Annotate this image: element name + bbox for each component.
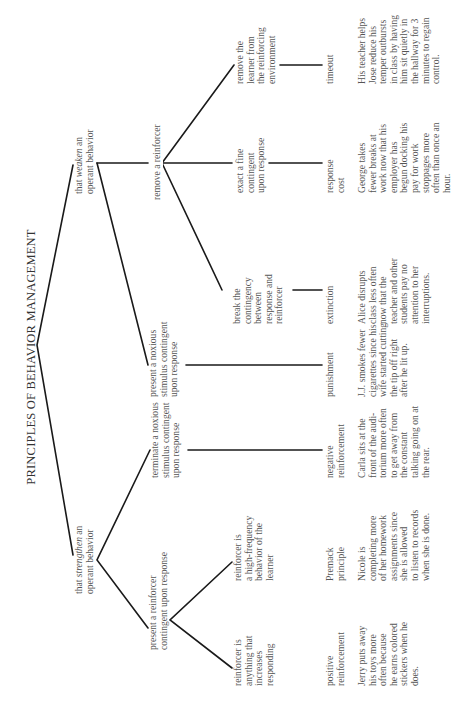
example-positive-reinforcement: Jerry puts away his toys more often beca… — [357, 622, 421, 686]
strengthen-emph: strengthen — [73, 537, 84, 577]
example-negative-reinforcement: Carla sits at the front of the audi- tor… — [357, 406, 431, 478]
example-extinction: Alice disrupts class less often now that… — [357, 258, 431, 324]
example-response-cost: George takes fewer breaks at work now th… — [357, 122, 452, 193]
remove-to-break-line — [162, 163, 222, 290]
term-extinction: extinction — [325, 286, 336, 324]
node-present-noxious: present a noxious stimulus contingent up… — [148, 322, 180, 397]
term-positive-reinforcement: positive reinforcement — [325, 632, 346, 686]
node-remove-learner: remove the learner from the reinforcing … — [235, 27, 277, 84]
term-timeout: timeout — [325, 55, 336, 84]
example-timeout: His teacher helps Jose reduce his temper… — [357, 15, 442, 84]
strengthen-prefix: that — [73, 577, 84, 594]
node-reinforcer-anything: reinforcer is anything that increases re… — [233, 636, 275, 686]
diagram-title: PRINCIPLES OF BEHAVIOR MANAGEMENT — [24, 0, 39, 714]
weaken-emph: weaken — [73, 148, 84, 177]
term-punishment: punishment — [325, 352, 336, 397]
weaken-to-noxious-line — [97, 163, 148, 365]
strengthen-branch-line — [97, 450, 150, 628]
node-reinforcer-high-frequency: reinforcer is a high-frequency behavior … — [233, 516, 275, 581]
root-branch-line — [37, 165, 73, 555]
node-remove-reinforcer: remove a reinforcer — [152, 122, 163, 202]
node-weaken: that weaken an operant behavior — [74, 129, 95, 194]
node-strengthen: that strengthen an operant behavior — [74, 526, 95, 594]
node-break-contingency: break the contingency between response a… — [232, 274, 285, 324]
diagram-stage: PRINCIPLES OF BEHAVIOR MANAGEMENT that s… — [0, 0, 460, 714]
node-present-reinforcer: present a reinforcer contingent upon res… — [148, 552, 169, 650]
term-response-cost: response cost — [325, 159, 346, 193]
remove-to-learner-line — [162, 65, 234, 163]
weaken-prefix: that — [73, 177, 84, 194]
present-reinforcer-branch-line — [170, 562, 232, 668]
node-exact-fine: exact a fine contingent upon response — [235, 138, 267, 193]
term-negative-reinforcement: negative reinforcement — [325, 424, 346, 478]
example-punishment: J.J. smokes fewer cigarettes since his w… — [357, 323, 410, 397]
node-terminate-noxious: terminate a noxious stimulus contingent … — [150, 402, 182, 478]
term-premack-principle: Premack principle — [325, 547, 346, 581]
example-premack-principle: Nicole is completing more of her homewor… — [357, 510, 431, 581]
